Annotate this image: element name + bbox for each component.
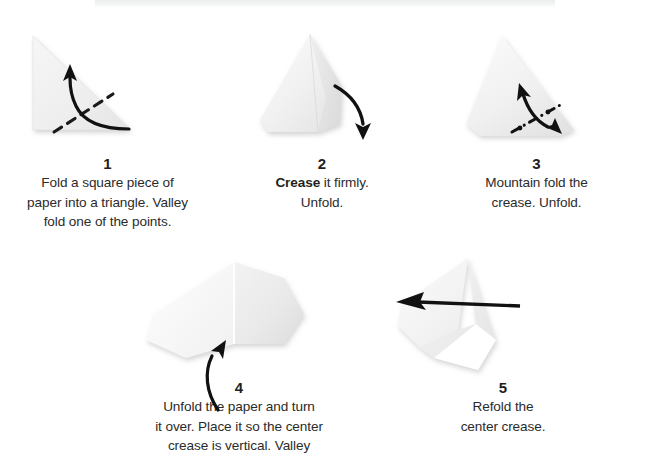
- step-4-line-1: Unfold the paper and turn: [163, 399, 315, 414]
- step-1-figure: [0, 28, 215, 148]
- step-2-line-1-bold: Crease: [275, 175, 320, 190]
- step-1: 1 Fold a square piece of paper into a tr…: [0, 28, 215, 232]
- step-2-number: 2: [222, 154, 422, 173]
- paper-cone-icon: [260, 34, 342, 132]
- step-1-line-1: Fold a square piece of: [41, 175, 173, 190]
- step-1-text: Fold a square piece of paper into a tria…: [0, 173, 215, 232]
- step-5-line-1: Refold the: [473, 399, 534, 414]
- step-1-line-3: fold one of the points.: [44, 214, 172, 229]
- step-3-text: Mountain fold the crease. Unfold.: [424, 173, 649, 212]
- step-3-line-2: crease. Unfold.: [492, 195, 582, 210]
- step-4-number: 4: [108, 378, 370, 397]
- step-4-figure: [108, 252, 370, 374]
- step-3-caption: 3 Mountain fold the crease. Unfold.: [424, 154, 649, 212]
- fold-dot-icon: [546, 110, 551, 115]
- step-5: 5 Refold the center crease.: [372, 252, 634, 436]
- step-5-number: 5: [372, 378, 634, 397]
- step-3-figure: [424, 28, 649, 148]
- step-2-line-1-rest: it firmly.: [320, 175, 368, 190]
- top-edge-band: [95, 0, 555, 8]
- step-4-text: Unfold the paper and turn it over. Place…: [108, 397, 370, 456]
- step-1-number: 1: [0, 154, 215, 173]
- step-2-figure: [222, 28, 422, 148]
- step-2: 2 Crease it firmly. Unfold.: [222, 28, 422, 212]
- step-5-text: Refold the center crease.: [372, 397, 634, 436]
- step-5-line-2: center crease.: [461, 419, 546, 434]
- step-1-line-2: paper into a triangle. Valley: [27, 195, 188, 210]
- step-2-line-2: Unfold.: [301, 195, 343, 210]
- step-2-caption: 2 Crease it firmly. Unfold.: [222, 154, 422, 212]
- origami-instruction-sheet: 1 Fold a square piece of paper into a tr…: [0, 0, 649, 473]
- step-3-number: 3: [424, 154, 649, 173]
- step-4-caption: 4 Unfold the paper and turn it over. Pla…: [108, 378, 370, 456]
- step-3-line-1: Mountain fold the: [485, 175, 588, 190]
- paper-refolded-icon: [398, 258, 496, 370]
- step-4-line-2: it over. Place it so the center: [155, 419, 323, 434]
- step-3: 3 Mountain fold the crease. Unfold.: [424, 28, 649, 212]
- step-5-figure: [372, 252, 634, 374]
- step-4-line-3: crease is vertical. Valley: [168, 438, 310, 453]
- fold-dot-icon: [518, 126, 523, 131]
- step-4: 4 Unfold the paper and turn it over. Pla…: [108, 252, 370, 456]
- step-1-caption: 1 Fold a square piece of paper into a tr…: [0, 154, 215, 232]
- step-2-text: Crease it firmly. Unfold.: [222, 173, 422, 212]
- step-5-caption: 5 Refold the center crease.: [372, 378, 634, 436]
